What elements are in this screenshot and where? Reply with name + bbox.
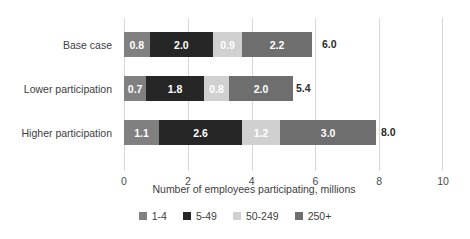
bar-segment-1-4: 0.7: [124, 76, 146, 101]
bar-segment-value: 0.7: [128, 83, 143, 95]
x-axis-title-text: Number of employees participating, milli…: [152, 183, 355, 195]
gridline-10: [442, 18, 443, 171]
bar-segment-value: 0.9: [220, 39, 235, 51]
bar-segment-50-249: 1.2: [242, 120, 280, 145]
legend-item-1-4[interactable]: 1-4: [139, 210, 167, 222]
legend-label: 250+: [308, 210, 332, 222]
bar-segment-value: 0.8: [209, 83, 224, 95]
bar-total-label: 5.4: [296, 76, 311, 101]
bar-segment-value: 2.6: [193, 127, 208, 139]
legend-item-5-49[interactable]: 5-49: [183, 210, 217, 222]
legend-label: 5-49: [196, 210, 217, 222]
legend-label: 1-4: [152, 210, 167, 222]
bar-row: 0.7 1.8 0.8 2.0: [124, 76, 293, 101]
bar-segment-value: 2.0: [254, 83, 269, 95]
bar-segment-value: 1.2: [254, 127, 269, 139]
bar-segment-value: 3.0: [321, 127, 336, 139]
bar-segment-1-4: 1.1: [124, 120, 159, 145]
bar-segment-value: 0.8: [129, 39, 144, 51]
bar-segment-250-plus: 3.0: [280, 120, 376, 145]
bar-row: 0.8 2.0 0.9 2.2: [124, 32, 312, 57]
category-label-base-case: Base case: [63, 40, 112, 51]
bar-segment-250-plus: 2.2: [242, 32, 312, 57]
bar-row: 1.1 2.6 1.2 3.0: [124, 120, 376, 145]
legend-item-250-plus[interactable]: 250+: [295, 210, 332, 222]
bar-total-label: 8.0: [381, 120, 396, 145]
legend-swatch-icon: [295, 212, 303, 220]
category-label-lower-participation: Lower participation: [24, 84, 112, 95]
category-axis-labels: Base case Lower participation Higher par…: [0, 0, 118, 239]
legend-label: 50-249: [246, 210, 279, 222]
legend-swatch-icon: [183, 212, 191, 220]
bar-segment-5-49: 2.0: [150, 32, 214, 57]
legend-item-50-249[interactable]: 50-249: [233, 210, 279, 222]
bar-segment-value: 2.0: [174, 39, 189, 51]
bar-segment-value: 1.1: [134, 127, 149, 139]
category-label-higher-participation: Higher participation: [22, 128, 112, 139]
legend-swatch-icon: [233, 212, 241, 220]
chart-legend: 1-4 5-49 50-249 250+: [0, 210, 470, 222]
bar-total-label: 6.0: [322, 32, 337, 57]
bar-segment-value: 1.8: [168, 83, 183, 95]
bar-segment-5-49: 2.6: [159, 120, 242, 145]
stacked-bar-chart: Base case Lower participation Higher par…: [0, 0, 470, 239]
bar-segment-50-249: 0.9: [213, 32, 242, 57]
bar-segment-value: 2.2: [270, 39, 285, 51]
bar-segment-50-249: 0.8: [204, 76, 230, 101]
gridline-6: [315, 18, 316, 171]
gridline-8: [379, 18, 380, 171]
bar-segment-5-49: 1.8: [146, 76, 203, 101]
x-axis-title: Number of employees participating, milli…: [0, 183, 470, 195]
legend-swatch-icon: [139, 212, 147, 220]
bar-segment-250-plus: 2.0: [229, 76, 293, 101]
bar-segment-1-4: 0.8: [124, 32, 150, 57]
